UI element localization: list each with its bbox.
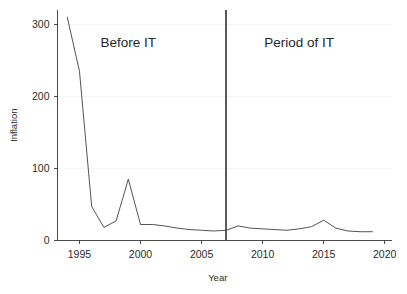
x-axis-title: Year: [208, 272, 227, 283]
inflation-line-chart-figure: 300 200 100 0 1995 2000 2005 2010 2015 2…: [0, 0, 407, 294]
x-tick-label-1995: 1995: [68, 248, 92, 260]
x-tick-label-2005: 2005: [190, 248, 214, 260]
x-tick-labels: 1995 2000 2005 2010 2015 2020: [68, 248, 397, 260]
region-label-before-it: Before IT: [101, 35, 157, 50]
region-label-period-of-it: Period of IT: [264, 35, 334, 50]
x-tick-label-2020: 2020: [373, 248, 397, 260]
gridlines-group: [58, 24, 393, 240]
y-tick-label-200: 200: [32, 90, 50, 102]
y-tick-label-0: 0: [44, 234, 50, 246]
x-tick-label-2010: 2010: [251, 248, 275, 260]
x-tick-label-2000: 2000: [129, 248, 153, 260]
y-tick-labels: 300 200 100 0: [32, 18, 50, 246]
y-axis-title: Inflation: [8, 109, 19, 142]
x-tick-label-2015: 2015: [312, 248, 336, 260]
y-axis-ticks: [54, 24, 58, 240]
chart-canvas: 300 200 100 0 1995 2000 2005 2010 2015 2…: [0, 0, 407, 294]
x-axis-ticks: [79, 240, 384, 244]
y-tick-label-300: 300: [32, 18, 50, 30]
y-tick-label-100: 100: [32, 162, 50, 174]
